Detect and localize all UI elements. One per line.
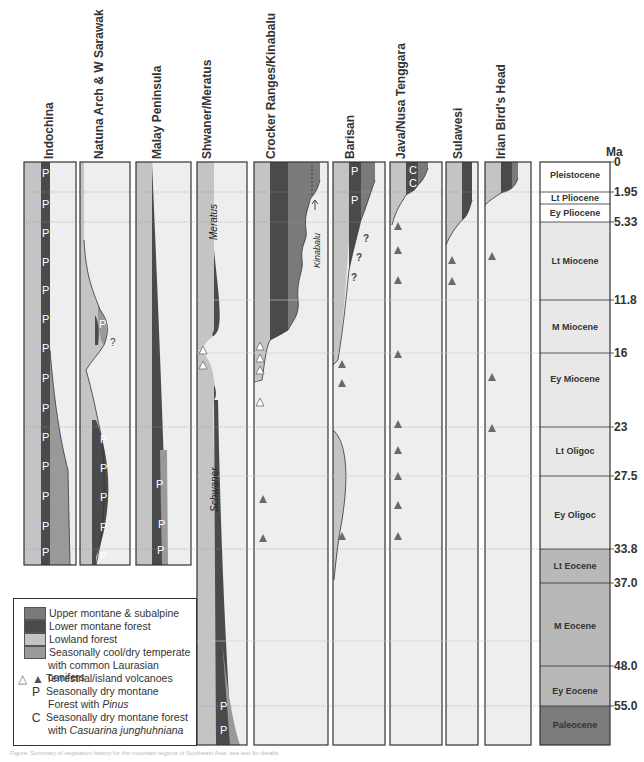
- legend: Upper montane & subalpine Lower montane …: [13, 598, 197, 746]
- axis-tick: 11.8: [614, 293, 637, 307]
- epoch-label: Lt Eocene: [540, 561, 610, 571]
- axis-tick: 37.0: [614, 576, 637, 590]
- epoch-label: Lt Miocene: [540, 256, 610, 266]
- pinus-marker: P: [156, 478, 163, 490]
- pinus-icon: P: [26, 685, 46, 699]
- uncertainty-mark: ?: [351, 272, 357, 283]
- epoch-label: Lt Pliocene: [540, 193, 610, 203]
- legend-label-italic: Pinus: [102, 698, 128, 710]
- axis-tick: 16: [614, 346, 627, 360]
- pinus-marker: P: [42, 342, 49, 354]
- pinus-marker: P: [158, 518, 165, 530]
- axis-tick: 1.95: [614, 185, 637, 199]
- legend-swatch-lowland: [24, 633, 46, 646]
- column-sulawesi: [446, 162, 478, 745]
- column-shwaner-meratus: [197, 162, 247, 745]
- legend-label-italic: Casuarina junghuhniana: [70, 724, 184, 736]
- pinus-marker: P: [42, 431, 49, 443]
- pinus-marker: P: [351, 194, 358, 206]
- pinus-marker: P: [42, 284, 49, 296]
- legend-label: Forest with: [48, 698, 102, 710]
- epoch-label: Ey Oligoc: [540, 510, 610, 520]
- epoch-label: M Miocene: [540, 322, 610, 332]
- pinus-marker: P: [42, 546, 49, 558]
- pinus-marker: P: [42, 372, 49, 384]
- pinus-marker: P: [42, 313, 49, 325]
- legend-label: Lower montane forest: [49, 620, 151, 632]
- pinus-marker: P: [42, 256, 49, 268]
- pinus-marker: P: [42, 227, 49, 239]
- region-label-meratus: Meratus: [208, 204, 219, 240]
- axis-tick: 55.0: [614, 699, 637, 713]
- axis-tick: 5.33: [614, 215, 637, 229]
- legend-label: with: [48, 724, 70, 736]
- epoch-label: Ey Miocene: [540, 374, 610, 384]
- casuarina-icon: C: [26, 711, 46, 725]
- casuarina-marker: C: [409, 164, 417, 176]
- axis-tick: 33.8: [614, 542, 637, 556]
- pinus-marker: P: [220, 700, 227, 712]
- pinus-marker: P: [100, 433, 107, 445]
- pinus-marker: P: [220, 724, 227, 736]
- epoch-label: Pleistocene: [540, 170, 610, 180]
- uncertainty-mark: ?: [363, 233, 369, 244]
- column-indochina: [24, 162, 76, 565]
- pinus-marker: P: [100, 491, 107, 503]
- casuarina-marker: C: [409, 177, 417, 189]
- legend-swatch-temperate: [24, 646, 46, 659]
- column-natuna: [80, 162, 130, 565]
- axis-tick: 23: [614, 420, 627, 434]
- legend-swatch-lower-montane: [24, 620, 46, 633]
- uncertainty-mark: ?: [356, 252, 362, 263]
- pinus-marker: P: [42, 167, 49, 179]
- pinus-marker: P: [100, 462, 107, 474]
- column-irian-birds-head: [485, 162, 531, 745]
- axis-tick: 0: [614, 155, 621, 169]
- epoch-label: Ey Pliocene: [540, 208, 610, 218]
- pinus-marker: P: [42, 520, 49, 532]
- figure-caption: Figure: Summary of vegetation history fo…: [10, 750, 640, 756]
- legend-label: Terrestrial/island volcanoes: [46, 672, 173, 684]
- legend-label: Upper montane & subalpine: [49, 607, 179, 619]
- uncertainty-mark: ?: [110, 337, 116, 348]
- pinus-marker: P: [157, 544, 164, 556]
- legend-swatch-upper-montane: [24, 607, 46, 620]
- volcano-open-icon: △: [18, 672, 32, 686]
- legend-label: Seasonally dry montane forest: [46, 711, 188, 723]
- pinus-marker: P: [351, 165, 358, 177]
- epoch-label: Lt Oligoc: [540, 446, 610, 456]
- legend-label: Lowland forest: [49, 633, 117, 645]
- legend-label: Seasonally cool/dry temperate: [49, 646, 190, 658]
- legend-label: Seasonally dry montane: [46, 685, 159, 697]
- epoch-label: Paleocene: [540, 720, 610, 730]
- pinus-marker: P: [42, 460, 49, 472]
- pinus-marker: P: [42, 402, 49, 414]
- region-label-kinabalu: Kinabalu: [312, 233, 322, 268]
- region-label-schwaner: Schwaner: [209, 468, 220, 512]
- pinus-marker: P: [42, 490, 49, 502]
- pinus-marker: P: [100, 550, 107, 562]
- epoch-label: M Eocene: [540, 621, 610, 631]
- pinus-marker: P: [99, 318, 106, 330]
- axis-tick: 48.0: [614, 659, 637, 673]
- volcano-filled-icon: ▲: [32, 672, 46, 686]
- epoch-label: Ey Eocene: [540, 686, 610, 696]
- pinus-marker: P: [100, 521, 107, 533]
- pinus-marker: P: [42, 198, 49, 210]
- axis-tick: 27.5: [614, 469, 637, 483]
- column-malay-peninsula: [136, 162, 191, 565]
- column-barisan: [333, 162, 385, 745]
